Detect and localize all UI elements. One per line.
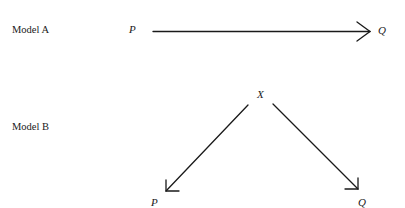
model-a-arrow-p-to-q — [153, 22, 370, 41]
model-b-arrow-x-to-q — [273, 104, 358, 189]
arrow-shaft — [273, 104, 358, 189]
model-b-arrow-x-to-p — [166, 105, 248, 191]
arrow-shaft — [166, 105, 248, 191]
diagram-canvas — [0, 0, 405, 208]
